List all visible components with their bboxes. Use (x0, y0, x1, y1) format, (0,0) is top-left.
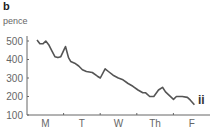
price-line-series (37, 40, 194, 105)
y-axis-ticks: 100200300400500 (6, 36, 29, 121)
y-tick-label: 200 (6, 91, 23, 102)
x-tick-label: T (79, 118, 85, 129)
x-tick-label: W (114, 118, 124, 129)
chart-axes (27, 36, 210, 115)
y-tick-label: 500 (6, 36, 23, 47)
x-tick-label: Th (149, 118, 161, 129)
series-label: ii (198, 93, 205, 107)
line-chart: 100200300400500 MTWThF (0, 0, 212, 139)
x-tick-label: M (41, 118, 49, 129)
y-tick-label: 300 (6, 73, 23, 84)
y-tick-label: 400 (6, 54, 23, 65)
y-tick-label: 100 (6, 110, 23, 121)
x-tick-label: F (189, 118, 195, 129)
